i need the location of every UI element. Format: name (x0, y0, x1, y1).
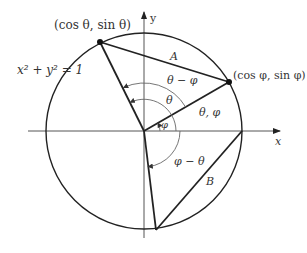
radius-theta (100, 42, 144, 131)
theta-point-label: (cos θ, sin θ) (54, 18, 131, 32)
phi-point-dot (226, 79, 232, 85)
diagram-canvas: (cos θ, sin θ) (cos φ, sin φ) x² + y² = … (0, 0, 307, 253)
angle-theta-phi-label: θ, φ (199, 106, 221, 119)
arc-phi (158, 123, 160, 131)
angle-phi-label: φ (161, 119, 168, 130)
chord-B-label: B (205, 175, 214, 188)
angle-theta-minus-phi-label: θ − φ (167, 74, 198, 87)
phi-point-label: (cos φ, sin φ) (233, 69, 306, 82)
chord-A-label: A (169, 50, 178, 63)
radius-bottom (144, 131, 156, 230)
theta-point-dot (97, 39, 103, 45)
angle-phi-minus-theta-label: φ − θ (174, 155, 205, 168)
chord-A (100, 42, 229, 82)
angle-theta-label: θ (166, 94, 173, 107)
circle-equation: x² + y² = 1 (17, 63, 83, 77)
unit-circle-diagram: (cos θ, sin θ) (cos φ, sin φ) x² + y² = … (0, 0, 307, 253)
x-axis-label: x (275, 135, 282, 148)
y-axis-label: y (149, 12, 157, 25)
